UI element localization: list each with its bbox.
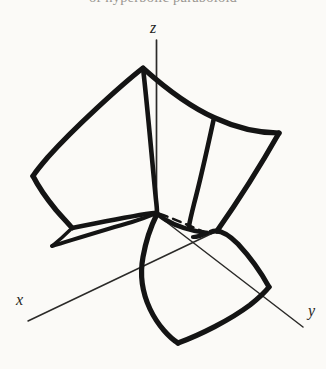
hyperbolic-paraboloid-drawing (0, 0, 326, 369)
y-axis-line (165, 221, 303, 327)
lower-front-wing-left-edge (142, 214, 178, 343)
upper-right-wing-fold (189, 118, 214, 226)
coordinate-axes (28, 40, 303, 327)
upper-left-wing-top-edge (33, 68, 143, 176)
left-sliver-lower-edge (52, 213, 157, 246)
y-axis-label: y (308, 303, 315, 319)
x-axis-label: x (16, 292, 23, 308)
z-axis-label: z (150, 20, 156, 36)
hidden-edge-dashed (160, 214, 206, 233)
lower-front-wing-bottom-edge (178, 287, 269, 343)
upper-left-wing-left-edge (33, 176, 72, 228)
figure-page: of hyperbolic paraboloid (0, 0, 326, 369)
apex-ridge-to-saddle (143, 68, 157, 213)
upper-right-wing-right-edge (217, 133, 279, 231)
